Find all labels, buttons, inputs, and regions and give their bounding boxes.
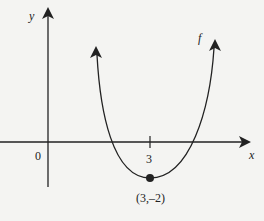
function-label: f	[198, 32, 201, 44]
x-tick-label-3: 3	[146, 153, 152, 165]
vertex-point	[146, 174, 154, 182]
parabola-graph	[0, 0, 264, 221]
function-curve-f	[97, 48, 214, 178]
curve-left-arrow-icon	[90, 46, 102, 58]
y-axis-label: y	[29, 10, 34, 22]
curve-right-arrow-icon	[209, 39, 221, 51]
origin-label: 0	[35, 150, 41, 162]
vertex-label: (3,–2)	[136, 192, 165, 204]
x-axis-label: x	[249, 149, 254, 161]
